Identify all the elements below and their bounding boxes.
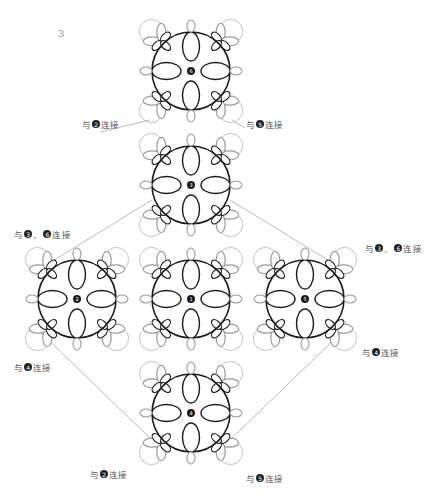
label-suffix: 连接 bbox=[381, 346, 399, 358]
svg-text:5: 5 bbox=[303, 296, 306, 302]
svg-text:1: 1 bbox=[189, 296, 192, 302]
label-suffix: 连接 bbox=[52, 228, 70, 240]
motif-4: 4 bbox=[139, 361, 242, 464]
connection-label-top-left: 与2连接 bbox=[82, 118, 120, 130]
motif-number-badge: 3 bbox=[375, 244, 383, 252]
label-prefix: 与 bbox=[362, 346, 371, 358]
label-prefix: 与 bbox=[365, 242, 374, 254]
label-suffix: 连接 bbox=[265, 472, 283, 484]
label-suffix: 连接 bbox=[265, 118, 283, 130]
svg-text:2: 2 bbox=[75, 296, 78, 302]
svg-text:3: 3 bbox=[189, 182, 192, 188]
connection-label-bottom-right: 与5连接 bbox=[246, 472, 284, 484]
svg-text:4: 4 bbox=[189, 410, 192, 416]
motif-number-badge: 4 bbox=[372, 348, 380, 356]
svg-text:6: 6 bbox=[189, 68, 192, 74]
motif-number-badge: 2 bbox=[92, 120, 100, 128]
connection-label-top-right: 与5连接 bbox=[246, 118, 284, 130]
connection-label-bottom-left: 与2连接 bbox=[90, 468, 128, 480]
motif-number-badge: 5 bbox=[256, 474, 264, 482]
motif-number-badge: 6 bbox=[394, 244, 402, 252]
motif-number-badge: 6 bbox=[43, 230, 51, 238]
connection-label-low-right: 与4连接 bbox=[362, 346, 400, 358]
label-suffix: 连接 bbox=[403, 242, 421, 254]
label-prefix: 与 bbox=[246, 118, 255, 130]
connection-label-mid-left: 与3、6连接 bbox=[14, 228, 71, 240]
label-suffix: 连接 bbox=[109, 468, 127, 480]
motif-number-badge: 4 bbox=[24, 363, 32, 371]
connection-label-mid-right: 与3、6连接 bbox=[365, 242, 422, 254]
label-suffix: 连接 bbox=[101, 118, 119, 130]
motif-number-badge: 2 bbox=[100, 470, 108, 478]
label-prefix: 与 bbox=[246, 472, 255, 484]
label-prefix: 与 bbox=[90, 468, 99, 480]
motif-2: 2 bbox=[25, 247, 128, 350]
motif-number-badge: 5 bbox=[256, 120, 264, 128]
motif-1: 1 bbox=[139, 247, 242, 350]
tatting-diagram: 632154 bbox=[0, 0, 426, 494]
motif-5: 5 bbox=[253, 247, 356, 350]
page-number: 3 bbox=[58, 28, 64, 39]
connection-label-low-left: 与4连接 bbox=[14, 361, 52, 373]
motif-number-badge: 3 bbox=[24, 230, 32, 238]
label-suffix: 连接 bbox=[33, 361, 51, 373]
motif-6: 6 bbox=[139, 19, 242, 122]
label-prefix: 与 bbox=[82, 118, 91, 130]
label-prefix: 与 bbox=[14, 228, 23, 240]
label-prefix: 与 bbox=[14, 361, 23, 373]
motif-3: 3 bbox=[139, 133, 242, 236]
